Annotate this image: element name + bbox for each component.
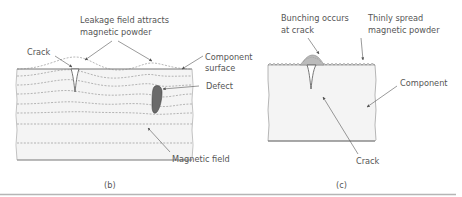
figure: Leakage field attracts magnetic powder C… (0, 0, 462, 197)
label-thinly-spread: Thinly spread (367, 13, 423, 23)
label-defect: Defect (206, 81, 234, 91)
bunched-powder (300, 55, 324, 65)
label-magnetic-field: Magnetic field (172, 154, 230, 164)
label-leakage-field-2: magnetic powder (80, 27, 152, 37)
label-component-surface-2: surface (205, 63, 235, 73)
label-crack-b: Crack (27, 47, 51, 57)
component-c-body (268, 65, 376, 141)
caption-c: (c) (336, 180, 347, 190)
label-bunching-2: at crack (281, 25, 314, 35)
label-thinly-spread-2: magnetic powder (368, 25, 440, 35)
label-component-c: Component (400, 78, 448, 88)
label-bunching: Bunching occurs (281, 13, 349, 23)
label-crack-c: Crack (356, 156, 380, 166)
panel-c: Bunching occurs at crack Thinly spread m… (268, 13, 448, 190)
panel-b: Leakage field attracts magnetic powder C… (16, 15, 253, 190)
label-component-surface: Component (205, 52, 253, 62)
component-b-body (17, 69, 192, 160)
label-leakage-field: Leakage field attracts (80, 15, 169, 25)
caption-b: (b) (104, 180, 116, 190)
